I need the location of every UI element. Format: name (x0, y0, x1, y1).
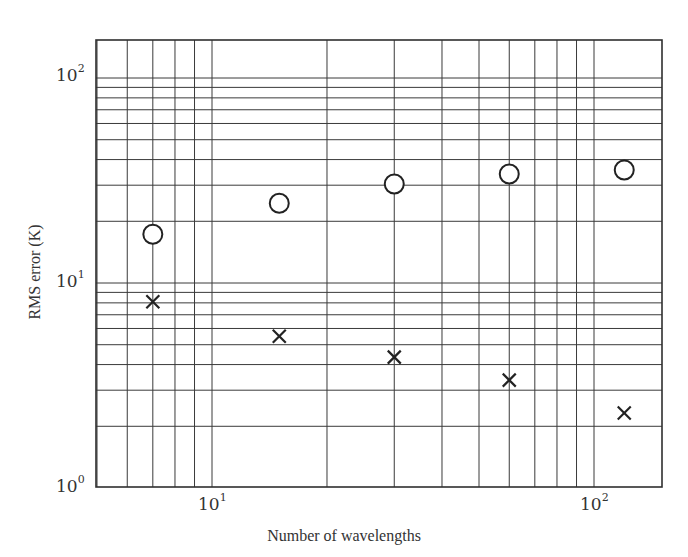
x-tick-label-100: 102 (580, 493, 609, 514)
grid-lines (96, 40, 662, 487)
y-axis-label: RMS error (K) (26, 224, 44, 319)
y-tick-label-10: 101 (56, 270, 85, 291)
y-tick-label-1: 100 (56, 475, 85, 496)
circle-marker (500, 165, 519, 184)
circle-marker (385, 175, 404, 194)
y-tick-label-100: 102 (56, 64, 85, 85)
chart-plot (0, 0, 688, 557)
x-tick-label-10: 101 (198, 493, 227, 514)
plot-frame (96, 40, 662, 487)
circle-marker (270, 194, 289, 213)
data-markers (143, 160, 633, 419)
circle-marker (143, 225, 162, 244)
circle-marker (615, 160, 634, 179)
cross-marker (618, 407, 631, 420)
cross-marker (273, 330, 286, 343)
x-axis-label: Number of wavelengths (0, 527, 688, 545)
